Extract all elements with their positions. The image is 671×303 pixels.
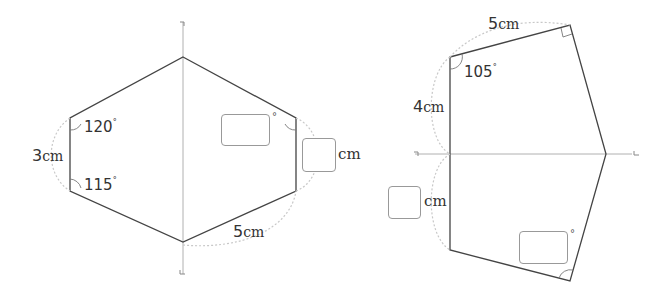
answer-box-side-left[interactable] — [302, 138, 336, 172]
answer-box-angle-right[interactable] — [519, 231, 568, 264]
side-unit: cm — [243, 224, 264, 240]
angle-arc-120 — [70, 124, 81, 130]
degree-symbol: ° — [570, 228, 575, 239]
label-angle-115: 115° — [84, 177, 117, 193]
side-value: 4 — [413, 97, 423, 116]
degree-symbol: ° — [272, 111, 277, 122]
degree-symbol: ° — [113, 118, 117, 127]
angle-arc-unknown — [285, 124, 296, 130]
label-side-4cm: 4cm — [413, 99, 444, 115]
label-angle-105: 105° — [464, 64, 497, 80]
angle-value: 120 — [84, 118, 113, 136]
left-figure — [51, 22, 318, 274]
angle-arc-115 — [70, 179, 81, 188]
unit-cm: cm — [338, 147, 361, 162]
side-unit: cm — [423, 99, 444, 115]
answer-box-angle-left[interactable] — [221, 114, 270, 146]
label-side-5cm-top: 5cm — [488, 16, 519, 32]
axis-end-mark-right — [634, 151, 639, 155]
label-angle-120: 120° — [84, 119, 117, 135]
side-value: 5 — [233, 222, 243, 241]
side-unit: cm — [498, 16, 519, 32]
side-value: 3 — [32, 146, 42, 165]
unit-cm: cm — [424, 194, 447, 209]
degree-symbol: ° — [493, 63, 497, 72]
degree-symbol: ° — [113, 176, 117, 185]
side-unit: cm — [42, 148, 63, 164]
label-side-5cm: 5cm — [233, 224, 264, 240]
answer-box-side-right[interactable] — [388, 186, 421, 219]
right-angle-mark — [561, 28, 572, 37]
side-value: 5 — [488, 14, 498, 33]
angle-value: 115 — [84, 176, 113, 194]
angle-value: 105 — [464, 63, 493, 81]
label-side-3cm: 3cm — [32, 148, 63, 164]
